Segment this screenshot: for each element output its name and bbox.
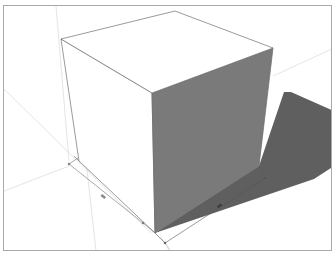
scene-canvas[interactable]	[3, 5, 332, 251]
modeling-viewport[interactable]	[3, 5, 332, 251]
